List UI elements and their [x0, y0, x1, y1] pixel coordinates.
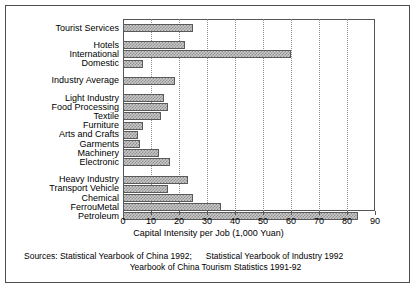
tick-label-40: 40: [220, 216, 250, 226]
tick-mark-90: [375, 211, 376, 215]
bar-machinery: [123, 149, 159, 157]
tick-label-90: 90: [360, 216, 390, 226]
chart-area: Tourist ServicesHotelsInternationalDomes…: [6, 6, 411, 238]
tick-mark-50: [263, 211, 264, 215]
tick-mark-30: [207, 211, 208, 215]
sources-line-1a: Sources: Statistical Yearbook of China 1…: [24, 251, 192, 261]
bar-tourist-services: [123, 24, 193, 32]
category-label-domestic: Domestic: [81, 59, 119, 68]
bar-furniture: [123, 122, 143, 130]
bar-garments: [123, 140, 140, 148]
category-label-arts-and-crafts: Arts and Crafts: [59, 130, 119, 139]
category-label-tourist-services: Tourist Services: [55, 24, 119, 33]
tick-label-30: 30: [192, 216, 222, 226]
tick-mark-10: [151, 211, 152, 215]
sources-line-1: Sources: Statistical Yearbook of China 1…: [6, 251, 411, 262]
tick-mark-70: [319, 211, 320, 215]
bar-hotels: [123, 41, 185, 49]
gridline-50: [263, 19, 264, 211]
gridline-30: [207, 19, 208, 211]
category-label-electronic: Electronic: [79, 158, 119, 167]
bar-domestic: [123, 60, 143, 68]
tick-mark-60: [291, 211, 292, 215]
bar-ferroumetal: [123, 203, 221, 211]
tick-mark-0: [123, 211, 124, 215]
tick-mark-20: [179, 211, 180, 215]
tick-label-0: 0: [108, 216, 138, 226]
tick-label-70: 70: [304, 216, 334, 226]
x-axis-title: Capital Intensity per Job (1,000 Yuan): [6, 228, 411, 238]
gridline-80: [347, 19, 348, 211]
gridline-60: [291, 19, 292, 211]
gridline-40: [235, 19, 236, 211]
bar-electronic: [123, 158, 170, 166]
category-label-industry-average: Industry Average: [52, 76, 119, 85]
bar-international: [123, 50, 291, 58]
bar-industry-average: [123, 77, 175, 85]
tick-mark-40: [235, 211, 236, 215]
tick-mark-80: [347, 211, 348, 215]
gridline-70: [319, 19, 320, 211]
tick-label-10: 10: [136, 216, 166, 226]
bar-light-industry: [123, 94, 164, 102]
bar-food-processing: [123, 103, 168, 111]
tick-label-80: 80: [332, 216, 362, 226]
bar-heavy-industry: [123, 176, 188, 184]
bar-transport-vehicle: [123, 185, 168, 193]
category-label-transport-vehicle: Transport Vehicle: [49, 184, 119, 193]
bar-textile: [123, 112, 161, 120]
figure-frame: Tourist ServicesHotelsInternationalDomes…: [5, 5, 410, 283]
sources-line-1b: Statistical Yearbook of Industry 1992: [206, 251, 344, 261]
tick-label-20: 20: [164, 216, 194, 226]
bar-chemical: [123, 194, 193, 202]
bar-arts-and-crafts: [123, 131, 138, 139]
sources-line-2: Yearbook of China Tourism Statistics 199…: [6, 262, 411, 273]
tick-label-60: 60: [276, 216, 306, 226]
sources-note: Sources: Statistical Yearbook of China 1…: [6, 251, 411, 273]
tick-label-50: 50: [248, 216, 278, 226]
